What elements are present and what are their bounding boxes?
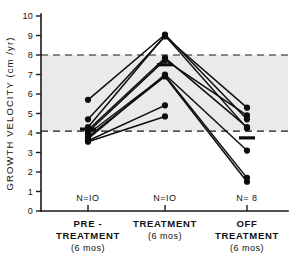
y-tick-label: 7	[28, 70, 33, 80]
category-label: TREATMENT	[133, 218, 197, 229]
y-tick-label: 6	[28, 89, 33, 99]
y-tick-label: 2	[28, 167, 33, 177]
y-tick-label: 4	[28, 128, 33, 138]
y-tick-label: 9	[28, 31, 33, 41]
growth-velocity-chart: 012345678910GROWTH VELOCITY (cm /yr)N=IO…	[0, 0, 297, 265]
y-tick-label: 3	[28, 148, 33, 158]
y-tick-label: 5	[28, 109, 33, 119]
data-point	[85, 97, 91, 103]
data-point	[162, 113, 168, 119]
data-point	[244, 179, 250, 185]
normal-range-band	[41, 55, 288, 131]
y-tick-label: 8	[28, 50, 33, 60]
category-label: TREATMENT	[215, 230, 279, 241]
data-point	[244, 105, 250, 111]
data-point	[162, 102, 168, 108]
category-label: TREATMENT	[56, 230, 120, 241]
sample-size-label: N=IO	[76, 193, 99, 203]
y-tick-label: 1	[28, 187, 33, 197]
y-tick-label: 0	[28, 206, 33, 216]
sample-size-label: N=IO	[153, 193, 176, 203]
data-point	[162, 57, 168, 63]
data-point	[244, 147, 250, 153]
y-tick-label: 10	[22, 11, 33, 21]
data-point	[85, 116, 91, 122]
category-label: (6 mos)	[148, 231, 182, 241]
data-point	[244, 124, 250, 130]
chart-canvas: 012345678910GROWTH VELOCITY (cm /yr)N=IO…	[0, 0, 297, 265]
sample-size-label: N= 8	[236, 193, 257, 203]
y-axis-title: GROWTH VELOCITY (cm /yr)	[4, 37, 15, 191]
category-label: OFF	[236, 218, 257, 229]
category-label: (6 mos)	[71, 243, 105, 253]
data-point	[162, 32, 168, 38]
data-point	[162, 71, 168, 77]
category-label: PRE -	[74, 218, 103, 229]
data-point	[85, 139, 91, 145]
category-label: (6 mos)	[230, 243, 264, 253]
data-point	[244, 112, 250, 118]
